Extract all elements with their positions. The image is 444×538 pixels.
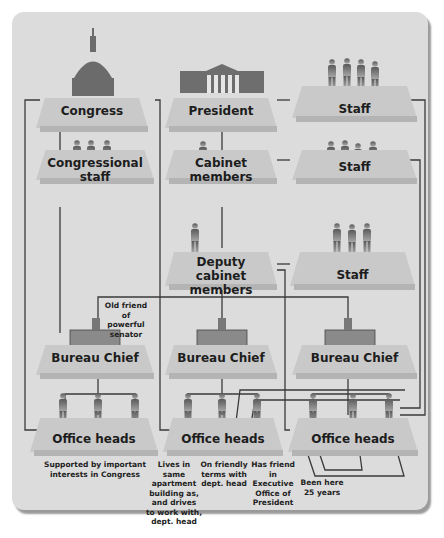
note-line: senator xyxy=(100,330,152,340)
platform-president: President xyxy=(165,98,277,132)
white-house-icon xyxy=(180,64,264,93)
label-office-left: Office heads xyxy=(30,432,158,446)
note-line: dept. head xyxy=(200,479,248,489)
annotation-friendly-terms: On friendly terms with dept. head xyxy=(200,460,248,489)
platform-bureau-right: Bureau Chief xyxy=(292,345,417,379)
annotation-lives-same: Lives in same apartment building as, and… xyxy=(146,460,202,527)
annotation-supported: Supported by important interests in Cong… xyxy=(40,460,150,479)
label-bureau-left: Bureau Chief xyxy=(36,351,154,365)
platform-third-staff: Staff xyxy=(290,252,415,290)
note-line: to work with, xyxy=(146,508,202,518)
label-bureau-middle: Bureau Chief xyxy=(165,351,277,365)
note-line: powerful xyxy=(100,320,152,330)
platform-cabinet: Cabinet members xyxy=(165,150,277,184)
note-line: Been here xyxy=(300,478,344,488)
label-office-right: Office heads xyxy=(288,432,418,446)
platform-office-left: Office heads xyxy=(30,418,158,456)
label-bureau-right: Bureau Chief xyxy=(292,351,417,365)
annotation-has-friend: Has friend in Executive Office of Presid… xyxy=(248,460,298,508)
note-line: dept. head xyxy=(146,517,202,527)
label-office-middle: Office heads xyxy=(163,432,283,446)
platform-deputy: Deputy cabinet members xyxy=(165,252,277,290)
note-line: Lives in same xyxy=(146,460,202,479)
platform-office-right: Office heads xyxy=(288,418,418,456)
note-line: terms with xyxy=(200,470,248,480)
label-congress: Congress xyxy=(36,104,148,118)
platform-congress: Congress xyxy=(36,98,148,132)
platform-bureau-middle: Bureau Chief xyxy=(165,345,277,379)
label-deputy-line2: cabinet members xyxy=(165,269,277,297)
label-staff-top: Staff xyxy=(292,102,417,116)
platform-top-staff: Staff xyxy=(292,86,417,122)
note-line: Has friend in xyxy=(248,460,298,479)
label-deputy-line1: Deputy xyxy=(165,255,277,269)
annotation-been-here: Been here 25 years xyxy=(300,478,344,497)
note-line: Supported by important xyxy=(40,460,150,470)
platform-congressional-staff: Congressional staff xyxy=(36,150,154,184)
label-congressional-staff: Congressional staff xyxy=(36,156,154,184)
annotation-old-friend: Old friend of powerful senator xyxy=(100,301,152,339)
note-line: and drives xyxy=(146,498,202,508)
platform-office-middle: Office heads xyxy=(163,418,283,456)
label-staff-second: Staff xyxy=(292,160,417,174)
platform-bureau-left: Bureau Chief xyxy=(36,345,154,379)
platform-second-staff: Staff xyxy=(292,150,417,184)
note-line: interests in Congress xyxy=(40,470,150,480)
note-line: building as, xyxy=(146,489,202,499)
note-line: Office of xyxy=(248,489,298,499)
note-line: apartment xyxy=(146,479,202,489)
note-line: Old friend of xyxy=(100,301,152,320)
note-line: Executive xyxy=(248,479,298,489)
capitol-dome-icon xyxy=(72,28,114,96)
label-staff-third: Staff xyxy=(290,268,415,282)
note-line: President xyxy=(248,498,298,508)
note-line: 25 years xyxy=(300,488,344,498)
label-cabinet-members: Cabinet members xyxy=(165,156,277,184)
label-president: President xyxy=(165,104,277,118)
note-line: On friendly xyxy=(200,460,248,470)
